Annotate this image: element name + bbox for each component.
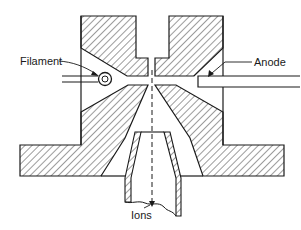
upper-right-block [155,16,223,76]
ion-source-diagram: Filament Anode Ions [0,0,301,230]
ions-label: Ions [131,209,152,221]
filament [62,73,112,86]
anode-label: Anode [254,56,286,68]
upper-left-block [81,16,148,76]
anode [198,76,300,87]
ion-tube-right-wall [164,132,181,216]
ion-tube-left-wall [125,132,141,202]
filament-label: Filament [20,55,62,67]
